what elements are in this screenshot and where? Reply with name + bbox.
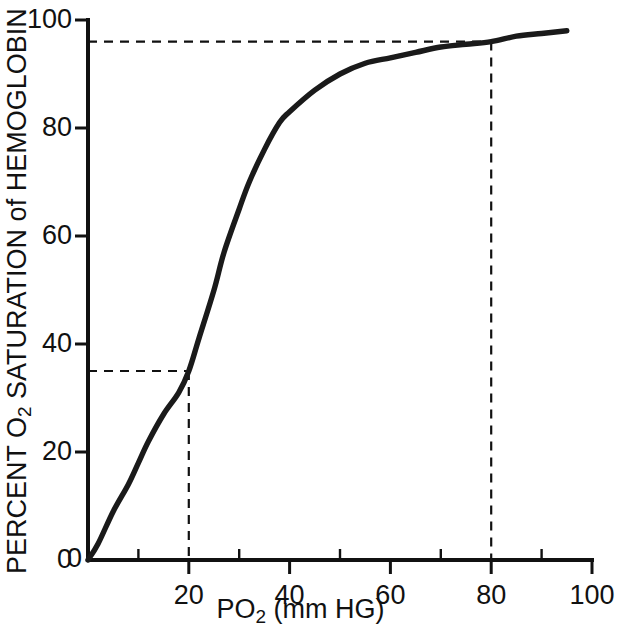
- x-axis-title: PO2 (mm HG): [0, 596, 601, 623]
- x-tick-label-0: 0: [42, 545, 82, 572]
- x-axis-title-subscript: 2: [255, 606, 266, 627]
- y-axis-title-subscript: 2: [14, 406, 35, 417]
- y-axis-title: PERCENT O2 SATURATION of HEMOGLOBIN (Hb): [4, 0, 31, 574]
- data-curve-0: [88, 31, 567, 560]
